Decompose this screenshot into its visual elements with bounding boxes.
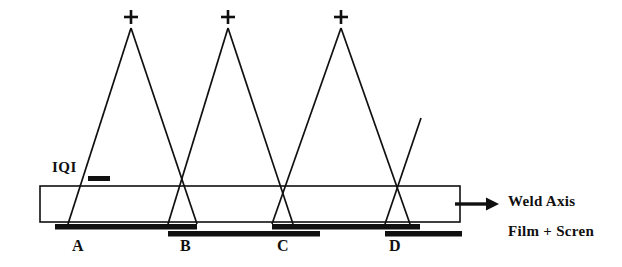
beam-1-right-edge: [131, 28, 197, 224]
film-screen-label: Film + Scren: [508, 224, 594, 239]
source-marker-3: [334, 10, 348, 24]
film-label-a: A: [72, 238, 84, 254]
film-label-c: C: [277, 238, 289, 254]
beam-3-right-edge: [341, 28, 410, 224]
source-marker-2: [221, 10, 235, 24]
film-strip-a: [55, 224, 197, 230]
beam-1-left-edge: [68, 28, 131, 224]
beam-2-left-edge: [168, 28, 228, 224]
film-strip-b: [168, 231, 320, 237]
iqi-marker: [88, 176, 110, 181]
diagram-canvas: IQI A B C D Weld Axis Film + Scren: [0, 0, 622, 267]
film-strip-d: [385, 231, 462, 237]
film-label-b: B: [180, 238, 191, 254]
weld-specimen-rect: [40, 186, 460, 222]
source-marker-1: [124, 10, 138, 24]
iqi-label: IQI: [52, 160, 77, 175]
beam-cone-3: [272, 28, 410, 224]
film-strip-c: [272, 224, 420, 230]
beam-4-partial-edge: [385, 118, 421, 224]
weld-axis-arrow-icon: [455, 198, 499, 211]
film-label-d: D: [389, 238, 401, 254]
weld-axis-label: Weld Axis: [508, 194, 575, 209]
beam-3-left-edge: [272, 28, 341, 224]
